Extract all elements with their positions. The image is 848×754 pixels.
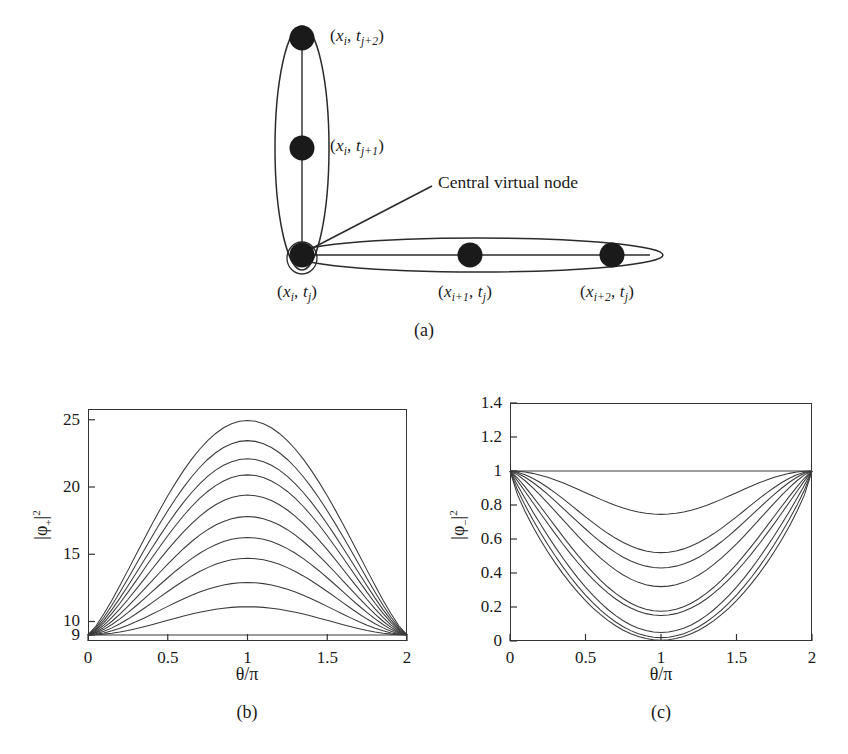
y-tick-label: 0.4 bbox=[444, 563, 502, 583]
x-tick-label: 1.5 bbox=[726, 648, 747, 668]
x-tick-label: 0 bbox=[506, 648, 515, 668]
y-tick-label: 0 bbox=[444, 631, 502, 651]
x-tick-label: 2 bbox=[808, 648, 817, 668]
x-tick-label: 0.5 bbox=[575, 648, 596, 668]
panel-c-chart: 00.20.40.60.811.21.400.511.52 θ/π |φ−|2 … bbox=[0, 0, 848, 754]
y-tick-label: 1 bbox=[444, 461, 502, 481]
panel-c-plot-frame bbox=[510, 403, 812, 641]
y-tick-label: 1.2 bbox=[444, 427, 502, 447]
figure-root: Central virtual node (xi, tj+2) (xi, tj+… bbox=[0, 0, 848, 754]
panel-c-xaxis-title: θ/π bbox=[650, 664, 673, 685]
panel-c-caption: (c) bbox=[651, 702, 671, 723]
panel-c-yaxis-title: |φ−|2 bbox=[447, 510, 471, 539]
y-tick-label: 1.4 bbox=[444, 393, 502, 413]
y-tick-label: 0.2 bbox=[444, 597, 502, 617]
